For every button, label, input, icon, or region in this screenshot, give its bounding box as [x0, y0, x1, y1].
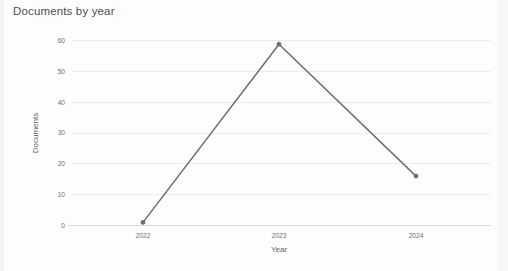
x-tick-label-2022: 2022 [136, 232, 151, 239]
plot-area: 60 50 40 30 20 10 0 2022 2023 2024 Year … [0, 0, 508, 271]
y-tick-label-30: 30 [58, 129, 66, 136]
y-tick-label-40: 40 [58, 99, 66, 106]
chart-card: Documents by year 60 50 40 30 20 10 0 [0, 0, 508, 271]
x-tick-label-2023: 2023 [272, 232, 287, 239]
y-tick-label-0: 0 [61, 222, 65, 229]
x-tick-label-2024: 2024 [409, 232, 424, 239]
x-axis-title: Year [271, 245, 288, 254]
line-chart-svg: 60 50 40 30 20 10 0 2022 2023 2024 Year … [0, 0, 508, 271]
y-tick-label-10: 10 [58, 191, 66, 198]
y-axis-title: Documents [31, 113, 40, 153]
y-tick-labels-group: 60 50 40 30 20 10 0 [58, 37, 66, 229]
y-tick-label-20: 20 [58, 160, 66, 167]
data-point-2022 [141, 220, 145, 224]
x-tick-labels-group: 2022 2023 2024 [136, 232, 424, 239]
y-tick-label-60: 60 [58, 37, 66, 44]
y-tick-label-50: 50 [58, 68, 66, 75]
gridlines-group [72, 41, 491, 195]
data-point-2023 [277, 42, 281, 46]
data-point-2024 [414, 174, 418, 178]
